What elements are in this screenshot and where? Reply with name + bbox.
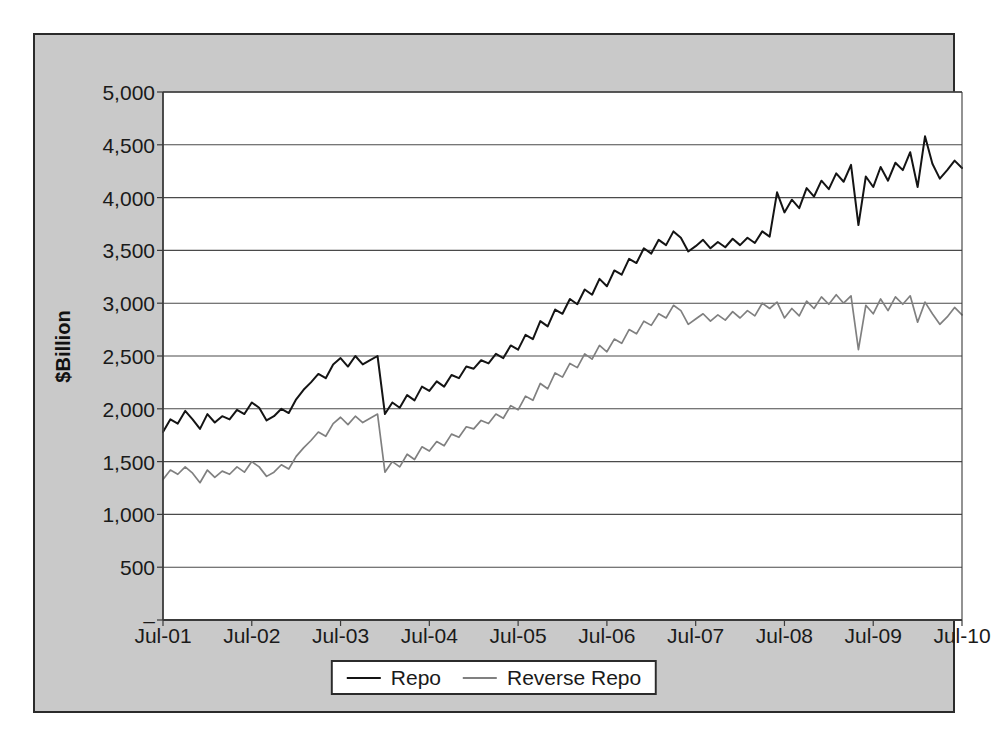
y-axis-tick-label: 3,000 <box>63 293 155 314</box>
y-axis-tick-label: 2,500 <box>63 346 155 367</box>
plot-border <box>157 92 962 626</box>
x-axis-tick-label: Jul-10 <box>907 625 995 646</box>
series-lines <box>163 136 962 482</box>
chart-legend: RepoReverse Repo <box>331 660 657 695</box>
series-line-reverse-repo <box>163 295 962 483</box>
plot-area <box>163 92 962 620</box>
y-axis-tick-label: 4,000 <box>63 187 155 208</box>
legend-line-swatch <box>463 677 497 679</box>
legend-entry-reverse-repo[interactable]: Reverse Repo <box>463 667 641 688</box>
plot-svg <box>163 92 962 620</box>
legend-label: Repo <box>391 667 441 688</box>
legend-line-swatch <box>347 677 381 679</box>
y-axis-tick-label: 4,500 <box>63 134 155 155</box>
y-axis-tick-label: 2,000 <box>63 398 155 419</box>
y-axis-tick-label: 1,000 <box>63 504 155 525</box>
x-axis-tick-labels: Jul-01Jul-02Jul-03Jul-04Jul-05Jul-06Jul-… <box>163 625 962 655</box>
legend-label: Reverse Repo <box>507 667 641 688</box>
y-axis-tick-label: 3,500 <box>63 240 155 261</box>
gridlines <box>163 92 962 620</box>
legend-entry-repo[interactable]: Repo <box>347 667 441 688</box>
y-axis-tick-label: 5,000 <box>63 82 155 103</box>
y-axis-tick-labels: 5,0004,5004,0003,5003,0002,5002,0001,500… <box>59 92 155 620</box>
y-axis-tick-label: 1,500 <box>63 451 155 472</box>
y-axis-tick-label: 500 <box>63 557 155 578</box>
chart-frame: $Billion 5,0004,5004,0003,5003,0002,5002… <box>33 33 955 713</box>
series-line-repo <box>163 136 962 432</box>
